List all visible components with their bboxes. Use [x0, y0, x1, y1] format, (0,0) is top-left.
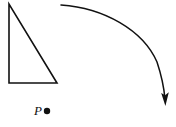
figure-background — [0, 0, 176, 127]
point-P-label: P — [33, 103, 42, 118]
figure-canvas: P — [0, 0, 176, 127]
geometry-figure: P — [0, 0, 176, 127]
point-P-dot — [44, 108, 50, 114]
